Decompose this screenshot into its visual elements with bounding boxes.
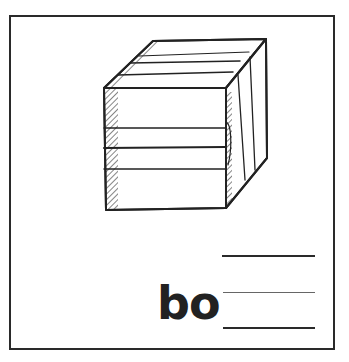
answer-blank[interactable] [223,327,315,329]
word-prefix: bo [157,280,220,326]
guide-mid-line [223,292,315,293]
guide-top-line [222,255,315,257]
